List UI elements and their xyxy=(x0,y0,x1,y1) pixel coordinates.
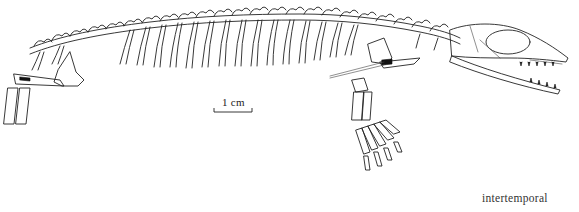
anatomical-label-intertemporal: intertemporal xyxy=(482,192,548,204)
skeleton-drawing xyxy=(0,0,579,212)
pectoral-girdle-forelimb xyxy=(330,38,420,170)
pelvis-hindlimb xyxy=(4,52,84,124)
scale-bar xyxy=(214,108,252,112)
skeleton-figure: 1 cm intertemporal xyxy=(0,0,579,212)
skull xyxy=(450,24,568,94)
scale-bar-label: 1 cm xyxy=(222,96,245,108)
vertebral-column xyxy=(30,7,460,54)
